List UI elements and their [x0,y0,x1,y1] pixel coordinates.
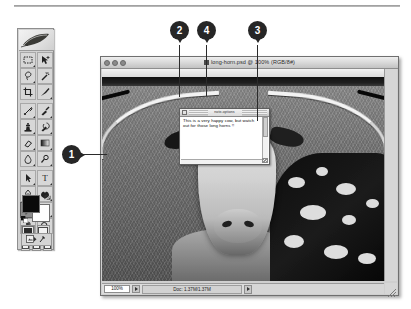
document-canvas[interactable]: note-options This is a very happy cow, b… [102,69,385,281]
photoshop-toolbox[interactable]: T [17,28,54,250]
document-status-bar[interactable]: 100% Doc: 1.37M/1.37M [102,283,252,294]
cow-muzzle [214,209,262,243]
tool-row-3[interactable] [20,84,53,100]
cow-spot [300,205,326,220]
triangle-right-icon [247,287,250,291]
tool-flyout-triangle-icon [33,132,35,134]
magic-wand-tool[interactable] [37,68,53,84]
tool-row-6[interactable] [20,135,53,151]
feather-logo-icon [21,32,52,48]
tool-row-5[interactable] [20,119,53,135]
note-title-label: note-options [208,109,242,116]
callout-4: 4 [197,21,216,40]
imageready-icon [26,235,37,244]
gradient-tool[interactable] [37,135,53,151]
figure-root: T [0,0,411,309]
callout-2-leader-line [179,45,180,97]
tool-flyout-triangle-icon [33,81,35,83]
callout-2-number: 2 [177,26,183,36]
paintbrush-tool[interactable] [37,103,53,119]
callout-3-leader-line [257,45,258,121]
tool-row-8[interactable]: T [20,170,53,186]
note-resize-grip-icon[interactable] [262,158,268,163]
document-info-field[interactable]: Doc: 1.37M/1.37M [142,285,242,294]
callout-4-leader-line [206,45,207,96]
type-tool[interactable]: T [37,170,53,186]
tool-row-7[interactable] [20,151,53,167]
top-divider-rule [14,5,400,7]
tool-flyout-triangle-icon [50,97,52,99]
path-selection-tool[interactable] [20,170,36,186]
tool-flyout-triangle-icon [50,148,52,150]
callout-1-number: 1 [69,150,75,160]
cow-spot [342,215,356,225]
cow-spot [366,199,379,208]
note-text[interactable]: This is a very happy cow, but watch out … [183,118,261,128]
move-tool[interactable] [37,52,53,68]
dodge-tool[interactable] [37,151,53,167]
tool-flyout-triangle-icon [33,148,35,150]
foreground-color-swatch[interactable] [22,195,40,213]
default-colors-icon[interactable] [21,216,28,223]
tool-flyout-triangle-icon [50,164,52,166]
tool-row-1[interactable] [20,52,53,68]
callout-4-tail [204,38,210,43]
note-scroll-thumb[interactable] [263,117,268,137]
eraser-tool[interactable] [20,135,36,151]
tool-flyout-triangle-icon [33,65,35,67]
slice-tool[interactable] [37,84,53,100]
cow-spot [336,183,356,195]
clone-stamp-tool[interactable] [20,119,36,135]
document-vertical-scrollbar[interactable] [384,69,397,281]
zoom-percentage-field[interactable]: 100% [104,285,130,293]
history-brush-tool[interactable] [37,119,53,135]
toolbox-logo[interactable] [19,30,54,51]
callout-2-tail [177,38,183,43]
note-body[interactable]: This is a very happy cow, but watch out … [181,117,262,159]
document-title-text: long-horn.psd @ 100% (RGB/8#) [211,59,295,65]
callout-3-number: 3 [255,26,261,36]
note-vertical-scrollbar[interactable] [262,117,268,158]
tool-row-2[interactable] [20,68,53,84]
cow-spot [284,235,304,248]
callout-1-tail [80,152,85,158]
callout-2: 2 [170,21,189,40]
tool-flyout-triangle-icon [50,132,52,134]
note-title-bar[interactable]: note-options [180,109,269,117]
status-size-box[interactable] [132,285,140,293]
tool-flyout-triangle-icon [33,183,35,185]
cow-spot [288,177,305,188]
tool-flyout-triangle-icon [50,183,52,185]
callout-4-number: 4 [204,26,210,36]
swap-colors-icon[interactable] [44,194,51,201]
window-resize-grip-icon[interactable] [385,283,397,294]
triangle-right-icon [135,287,138,291]
color-swatches[interactable] [22,195,51,222]
document-info-popup-button[interactable] [244,285,252,294]
document-title-bar[interactable]: long-horn.psd @ 100% (RGB/8#) [101,57,398,69]
tool-row-4[interactable] [20,103,53,119]
jump-to-imageready-button[interactable] [21,233,52,246]
callout-1: 1 [62,145,81,164]
tool-flyout-triangle-icon [33,164,35,166]
document-window[interactable]: long-horn.psd @ 100% (RGB/8#) [100,56,399,296]
note-close-box-icon[interactable] [182,110,187,115]
note-horizontal-scrollbar[interactable] [181,159,262,164]
jump-arrow-icon [39,235,47,244]
cow-body [270,153,385,281]
lasso-tool[interactable] [20,68,36,84]
tool-flyout-triangle-icon [33,116,35,118]
crop-tool[interactable] [20,84,36,100]
healing-brush-tool[interactable] [20,103,36,119]
blur-tool[interactable] [20,151,36,167]
marquee-tool[interactable] [20,52,36,68]
callout-3-tail [255,38,261,43]
document-title-label: long-horn.psd @ 100% (RGB/8#) [101,57,398,68]
cow-spot [316,167,328,176]
longhorn-photo [102,69,385,281]
tool-flyout-triangle-icon [50,116,52,118]
cow-spot [324,245,348,259]
cow-spot [358,253,376,264]
callout-3: 3 [248,21,267,40]
